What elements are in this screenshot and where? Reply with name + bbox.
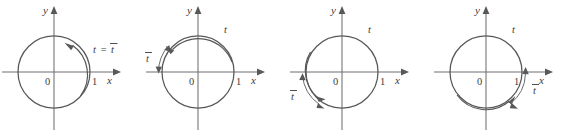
figure-root: x y 0 1 t = t x y 0 bbox=[0, 0, 576, 135]
measure-arrowhead-upper bbox=[522, 67, 529, 74]
t-bar-label: t bbox=[291, 91, 295, 102]
y-axis-arrowhead bbox=[483, 6, 490, 14]
panel-1: x y 0 1 t = t bbox=[0, 0, 144, 135]
panel-3: x y 0 1 t t bbox=[288, 0, 432, 135]
x-axis-label: x bbox=[106, 74, 112, 86]
y-axis-label: y bbox=[42, 4, 48, 16]
x-axis-arrowhead bbox=[401, 68, 409, 75]
unit-label: 1 bbox=[380, 76, 385, 87]
t-bar-label: t bbox=[146, 53, 150, 64]
panel-2: x y 0 1 t t bbox=[144, 0, 288, 135]
origin-label: 0 bbox=[189, 76, 194, 87]
unit-label: 1 bbox=[514, 76, 519, 87]
y-axis-label: y bbox=[186, 4, 192, 16]
x-axis-label: x bbox=[250, 74, 256, 86]
t-label: t bbox=[224, 24, 228, 35]
direction-arrow-arc bbox=[73, 45, 88, 96]
origin-label: 0 bbox=[333, 76, 338, 87]
origin-label: 0 bbox=[477, 76, 482, 87]
x-axis-label: x bbox=[394, 74, 400, 86]
x-axis-arrowhead bbox=[257, 68, 265, 75]
panel-4: x y 0 1 t t bbox=[432, 0, 576, 135]
t-label: t bbox=[368, 24, 372, 35]
y-axis-arrowhead bbox=[339, 6, 346, 14]
annotation-t-lhs: t bbox=[93, 44, 97, 55]
x-axis-arrowhead bbox=[113, 68, 121, 75]
measure-arrowhead-upper bbox=[299, 73, 306, 80]
y-axis-arrowhead bbox=[51, 6, 58, 14]
y-axis-label: y bbox=[474, 4, 480, 16]
y-axis-label: y bbox=[330, 4, 336, 16]
t-label: t bbox=[512, 24, 516, 35]
measure-arrowhead-lower bbox=[317, 103, 325, 108]
direction-arrow-arc bbox=[173, 39, 233, 62]
annotation-equals: = bbox=[100, 44, 107, 55]
unit-label: 1 bbox=[236, 76, 241, 87]
direction-arrowhead bbox=[316, 96, 325, 102]
annotation-t-rhs: t bbox=[111, 44, 115, 55]
origin-label: 0 bbox=[45, 76, 50, 87]
y-axis-arrowhead bbox=[195, 6, 202, 14]
t-bar-label: t bbox=[533, 85, 537, 96]
x-axis-arrowhead bbox=[545, 68, 553, 75]
direction-arrowhead bbox=[65, 43, 74, 50]
unit-label: 1 bbox=[92, 76, 97, 87]
